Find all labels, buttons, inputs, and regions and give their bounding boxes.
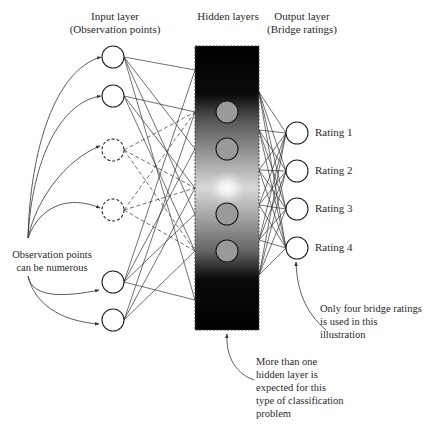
hidden-note-line-5: problem [256,407,343,420]
ratings-note: Only four bridge ratings is used in this… [320,302,422,341]
input-node-5 [102,271,124,293]
output-layer-subtitle: (Bridge ratings) [262,23,342,36]
connection-line [124,70,195,282]
observation-note-line-1: Observation points [6,248,98,261]
connection-line [124,112,195,150]
output-node-3 [286,198,308,220]
ratings-note-line-3: illustration [320,328,422,341]
connection-line [124,150,195,251]
arrow-to-input-1 [28,57,101,238]
hidden-node-3 [216,203,238,225]
arrow-to-hidden-box [227,334,254,380]
hidden-layer-title: Hidden layers [188,10,268,23]
input-node-4 [102,199,124,221]
connection-line [259,170,286,171]
arrow-to-input-2 [28,96,101,238]
observation-note: Observation points can be numerous [6,248,98,274]
connection-line [124,112,195,320]
connection-line [124,96,195,251]
connection-line [124,188,195,210]
observation-arrows [28,57,326,380]
hidden-to-output-connections [259,92,286,275]
connection-line [259,133,286,275]
output-layer-title: Output layer [262,10,342,23]
connection-line [124,57,195,300]
ratings-note-line-2: is used in this [320,315,422,328]
input-layer-title: Input layer [60,10,170,23]
hidden-note-line-3: expected for this [256,381,343,394]
input-to-hidden-connections [124,57,195,320]
connection-line [124,214,195,282]
input-node-3 [102,139,124,161]
hidden-note-line-2: hidden layer is [256,368,343,381]
rating-2-label: Rating 2 [315,164,353,177]
output-node-4 [286,237,308,259]
observation-note-line-2: can be numerous [6,261,98,274]
input-nodes [102,46,124,331]
rating-1-label: Rating 1 [315,126,353,139]
input-layer-header: Input layer (Observation points) [60,10,170,36]
hidden-node-2 [216,138,238,160]
arrow-to-input-5 [28,276,99,295]
connection-line [259,133,286,205]
hidden-layer-header: Hidden layers [188,10,268,23]
ratings-note-line-1: Only four bridge ratings [320,302,422,315]
rating-4-label: Rating 4 [315,241,353,254]
connection-line [124,188,195,320]
hidden-note-line-4: type of classification [256,394,343,407]
connection-line [259,92,286,133]
input-node-6 [102,309,124,331]
output-node-2 [286,160,308,182]
input-node-1 [102,46,124,68]
hidden-note-line-1: More than one [256,355,343,368]
connection-line [124,112,195,210]
arrow-to-input-6 [28,276,99,324]
neural-network-diagram [0,0,443,436]
rating-3-label: Rating 3 [315,202,353,215]
output-node-1 [286,122,308,144]
connection-line [124,57,195,70]
hidden-note: More than one hidden layer is expected f… [256,355,343,420]
hidden-node-4 [216,240,238,262]
hidden-node-1 [216,101,238,123]
arrow-to-input-3 [28,146,100,238]
hidden-layer-box [195,46,259,330]
output-nodes [286,122,308,259]
input-layer-subtitle: (Observation points) [60,23,170,36]
connection-line [124,282,195,300]
output-layer-header: Output layer (Bridge ratings) [262,10,342,36]
input-node-2 [102,85,124,107]
